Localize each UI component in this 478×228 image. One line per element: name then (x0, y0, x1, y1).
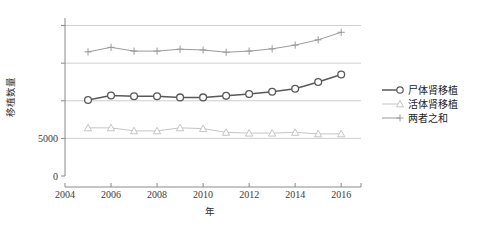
x-tick-label: 2010 (193, 189, 213, 200)
chart-canvas: 05000 2004200620082010201220142016 移植数量年… (0, 0, 478, 228)
chart-legend: 尸体肾移植活体肾移植两者之和 (382, 84, 458, 124)
data-point-marker (315, 79, 322, 86)
data-point-marker (130, 48, 137, 55)
data-point-marker (108, 92, 115, 99)
y-tick-label: 0 (53, 171, 58, 182)
data-point-marker (177, 94, 184, 101)
data-point-marker (200, 94, 207, 101)
data-point-marker (84, 48, 91, 55)
series-line (88, 74, 341, 100)
data-point-marker (107, 44, 114, 51)
x-tick-label: 2008 (147, 189, 167, 200)
data-point-marker (154, 93, 161, 100)
series-2 (84, 124, 344, 137)
legend-item-2[interactable]: 活体肾移植 (382, 98, 458, 110)
x-tick-label: 2014 (285, 189, 305, 200)
data-point-marker (292, 85, 299, 92)
series-1 (85, 71, 345, 103)
series-line (88, 128, 341, 134)
data-point-marker (199, 46, 206, 53)
data-point-marker (338, 71, 345, 78)
legend-label: 活体肾移植 (408, 98, 458, 110)
data-point-marker (269, 88, 276, 95)
x-tick-label: 2006 (101, 189, 121, 200)
x-tick-label: 2016 (331, 189, 351, 200)
data-point-marker (131, 93, 138, 100)
x-tick-label: 2012 (239, 189, 259, 200)
data-point-marker (85, 97, 92, 104)
x-axis: 2004200620082010201220142016 (55, 183, 361, 200)
data-point-marker (246, 91, 253, 98)
y-axis-title: 移植数量 (5, 77, 16, 117)
data-point-marker (315, 36, 322, 43)
x-axis-title: 年 (205, 206, 215, 217)
kidney-transplant-line-chart: 05000 2004200620082010201220142016 移植数量年… (0, 0, 478, 228)
data-point-marker (176, 46, 183, 53)
data-point-marker (223, 92, 230, 99)
legend-label: 尸体肾移植 (408, 84, 458, 96)
data-point-marker (338, 29, 345, 36)
x-tick-label: 2004 (55, 189, 75, 200)
data-point-marker (223, 49, 230, 56)
legend-item-1[interactable]: 尸体肾移植 (382, 84, 458, 96)
data-point-marker (269, 45, 276, 52)
series-line (88, 32, 341, 52)
legend-marker (397, 115, 404, 122)
plot-series (84, 29, 344, 137)
legend-label: 两者之和 (408, 112, 448, 124)
data-point-marker (292, 41, 299, 48)
data-point-marker (246, 48, 253, 55)
legend-marker (397, 87, 403, 93)
series-3 (84, 29, 344, 56)
legend-item-3[interactable]: 两者之和 (382, 112, 448, 124)
y-axis: 05000 (38, 18, 65, 182)
data-point-marker (153, 48, 160, 55)
y-tick-label: 5000 (38, 133, 58, 144)
